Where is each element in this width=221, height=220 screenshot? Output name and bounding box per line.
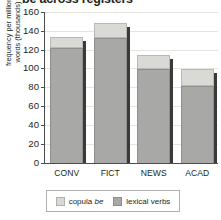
bar-shadow-news bbox=[170, 59, 173, 163]
bar-acad bbox=[181, 12, 214, 163]
y-tick-label-140: 140 bbox=[23, 26, 39, 36]
legend-item-lexical-verbs: lexical verbs bbox=[113, 197, 170, 206]
y-tick-label-160: 160 bbox=[23, 7, 39, 17]
bar-shadow-acad bbox=[214, 73, 217, 163]
bar-segment-lexical-verbs-acad bbox=[181, 86, 214, 162]
x-axis-line bbox=[44, 163, 218, 164]
legend-label-copula-be: copula be bbox=[69, 197, 104, 206]
x-axis-label-news: NEWS bbox=[141, 168, 167, 178]
y-tick-label-0: 0 bbox=[34, 158, 39, 168]
y-tick-label-20: 20 bbox=[28, 139, 39, 149]
copula-swatch-icon bbox=[56, 197, 65, 206]
y-tick-label-120: 120 bbox=[23, 45, 39, 55]
bar-segment-lexical-verbs-news bbox=[137, 69, 170, 162]
legend-item-copula-be: copula be bbox=[56, 197, 104, 206]
y-tick-mark-0 bbox=[41, 163, 44, 164]
bar-segment-lexical-verbs-fict bbox=[94, 38, 127, 162]
y-tick-mark-140 bbox=[41, 31, 44, 32]
plot-area: 020406080100120140160 bbox=[44, 12, 218, 164]
bar-segment-copula-be-acad bbox=[181, 69, 214, 86]
bar-shadow-fict bbox=[127, 27, 130, 163]
y-tick-mark-20 bbox=[41, 144, 44, 145]
y-tick-mark-40 bbox=[41, 125, 44, 126]
y-tick-label-40: 40 bbox=[28, 120, 39, 130]
legend-label-lexical-verbs: lexical verbs bbox=[126, 197, 170, 206]
chart-title: be across registers bbox=[22, 0, 133, 6]
bar-segment-lexical-verbs-conv bbox=[50, 48, 83, 163]
y-tick-label-80: 80 bbox=[28, 83, 39, 93]
chart-figure: be across registers frequency per millio… bbox=[0, 0, 221, 220]
y-tick-mark-160 bbox=[41, 12, 44, 13]
chart-legend: copula be lexical verbs bbox=[46, 190, 180, 212]
y-tick-mark-60 bbox=[41, 106, 44, 107]
y-tick-mark-120 bbox=[41, 50, 44, 51]
y-tick-mark-80 bbox=[41, 87, 44, 88]
lexical-swatch-icon bbox=[113, 197, 122, 206]
y-tick-mark-100 bbox=[41, 68, 44, 69]
bar-fict bbox=[94, 12, 127, 163]
x-axis-label-acad: ACAD bbox=[185, 168, 209, 178]
x-axis-label-conv: CONV bbox=[54, 168, 79, 178]
y-tick-label-60: 60 bbox=[28, 101, 39, 111]
y-tick-label-100: 100 bbox=[23, 64, 39, 74]
x-axis-label-fict: FICT bbox=[101, 168, 120, 178]
bar-segment-copula-be-conv bbox=[50, 37, 83, 47]
y-axis-title-line-2: words (thousands) bbox=[14, 0, 23, 92]
bar-segment-copula-be-fict bbox=[94, 23, 127, 38]
bar-segment-copula-be-news bbox=[137, 55, 170, 69]
bar-conv bbox=[50, 12, 83, 163]
bar-shadow-conv bbox=[83, 41, 86, 163]
bar-news bbox=[137, 12, 170, 163]
